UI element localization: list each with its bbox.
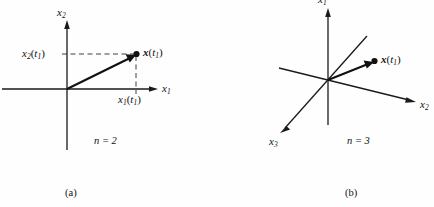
x1-axis-label: x1 (318, 0, 327, 7)
x2-projection-label: x2(t1) (22, 48, 45, 61)
x1-axis-label: x1 (162, 83, 171, 96)
state-vector-line (328, 64, 368, 80)
x3-axis-label: x3 (269, 136, 278, 149)
panel-a: x2 x1 x2(t1) x1(t1) x(t1) n = 2 (a) (0, 0, 217, 207)
dimension-note-a: n = 2 (94, 135, 117, 146)
state-point-dot (371, 58, 377, 64)
state-point-label: x(t1) (143, 47, 163, 60)
panel-b-drawing (217, 0, 434, 207)
panel-b-caption: (b) (345, 187, 357, 198)
x2-axis-label: x2 (420, 99, 429, 112)
state-vector-line (67, 58, 130, 89)
x1-projection-label: x1(t1) (118, 94, 141, 107)
state-point-label: x(t1) (381, 54, 401, 67)
figure-container: x2 x1 x2(t1) x1(t1) x(t1) n = 2 (a) (0, 0, 434, 207)
panel-a-caption: (a) (65, 187, 77, 198)
x2-axis-arrowhead (64, 20, 70, 29)
dimension-note-b: n = 3 (347, 135, 370, 146)
x1-axis-arrowhead (325, 8, 331, 17)
panel-a-drawing (0, 0, 217, 207)
state-point-dot (133, 51, 139, 57)
x2-axis-arrowhead (405, 97, 416, 103)
panel-b: x1 x2 x3 x(t1) n = 3 (b) (217, 0, 434, 207)
x1-axis-arrowhead (149, 86, 158, 92)
x2-axis-label: x2 (57, 7, 66, 20)
x3-axis-line (285, 36, 367, 128)
